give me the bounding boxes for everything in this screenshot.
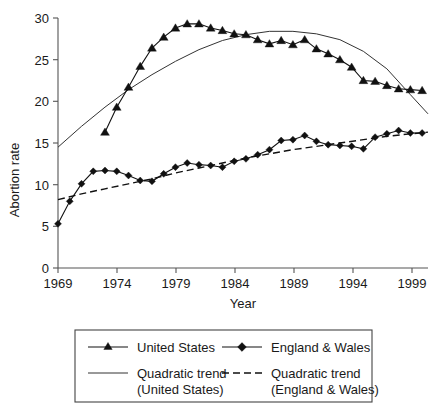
diamond-marker-icon: [66, 198, 73, 205]
diamond-marker-icon: [137, 177, 144, 184]
plot-data-layer: [55, 20, 429, 228]
legend-label-united-states: United States: [137, 340, 216, 355]
triangle-marker-icon: [324, 50, 333, 57]
diamond-marker-icon: [172, 164, 179, 171]
x-tick-label-1969: 1969: [44, 276, 73, 291]
diamond-marker-icon: [419, 130, 426, 137]
y-tick-label-0: 0: [42, 261, 49, 276]
diamond-marker-icon: [313, 138, 320, 145]
triangle-marker-icon: [112, 103, 121, 110]
diamond-marker-icon: [184, 160, 191, 167]
diamond-marker-icon: [395, 127, 402, 134]
diamond-marker-icon: [113, 168, 120, 175]
diamond-marker-icon: [219, 164, 226, 171]
y-axis-title: Abortion rate: [7, 143, 22, 217]
x-tick-label-1984: 1984: [221, 276, 250, 291]
triangle-marker-icon: [277, 36, 286, 43]
y-tick-label-30: 30: [35, 11, 49, 26]
legend-sublabel-quadratic-trend-ew: (England & Wales): [271, 382, 379, 397]
x-axis-title-text: Year: [230, 296, 257, 311]
trend-curve-united-states: [58, 31, 428, 147]
y-tick-label-25: 25: [35, 53, 49, 68]
series-line-england-wales: [58, 131, 422, 224]
triangle-marker-icon: [101, 128, 110, 135]
y-tick-label-15: 15: [35, 136, 49, 151]
chart-legend: United States England & Wales Quadratic …: [75, 330, 379, 402]
y-tick-label-10: 10: [35, 178, 49, 193]
diamond-marker-icon: [325, 141, 332, 148]
diamond-marker-icon: [301, 132, 308, 139]
x-axis-ticks: 1969 1974 1979 1984 1989 1994 1999: [44, 268, 427, 291]
triangle-marker-icon: [335, 55, 344, 62]
triangle-marker-icon: [124, 83, 133, 90]
legend-label-quadratic-trend-us: Quadratic trend: [137, 366, 227, 381]
y-axis-ticks: 0 5 10 15 20 25 30: [35, 11, 58, 276]
chart-figure: Abortion rate 0 5 10 15 20 25 30: [0, 0, 436, 408]
trend-curve-england-wales: [58, 132, 428, 200]
x-tick-label-1974: 1974: [103, 276, 132, 291]
diamond-marker-icon: [348, 143, 355, 150]
triangle-marker-icon: [300, 35, 309, 42]
triangle-marker-icon: [136, 62, 145, 69]
diamond-marker-icon: [101, 167, 108, 174]
diamond-marker-icon: [242, 155, 249, 162]
y-tick-label-5: 5: [42, 219, 49, 234]
y-tick-label-20: 20: [35, 94, 49, 109]
abortion-rate-line-chart: Abortion rate 0 5 10 15 20 25 30: [0, 0, 436, 408]
diamond-marker-icon: [125, 172, 132, 179]
series-england-wales: [55, 127, 426, 227]
triangle-marker-icon: [347, 63, 356, 70]
diamond-marker-icon: [289, 136, 296, 143]
x-tick-label-1999: 1999: [398, 276, 427, 291]
y-axis-title-text: Abortion rate: [7, 143, 22, 217]
series-united-states: [101, 20, 427, 136]
x-tick-label-1989: 1989: [280, 276, 309, 291]
diamond-marker-icon: [254, 151, 261, 158]
diamond-marker-icon: [207, 162, 214, 169]
legend-label-england-wales: England & Wales: [271, 340, 371, 355]
triangle-marker-icon: [253, 35, 262, 42]
x-tick-label-1994: 1994: [339, 276, 368, 291]
diamond-marker-icon: [407, 130, 414, 137]
legend-sublabel-quadratic-trend-us: (United States): [137, 382, 224, 397]
x-tick-label-1979: 1979: [162, 276, 191, 291]
legend-label-quadratic-trend-ew: Quadratic trend: [271, 366, 361, 381]
diamond-marker-icon: [231, 158, 238, 165]
